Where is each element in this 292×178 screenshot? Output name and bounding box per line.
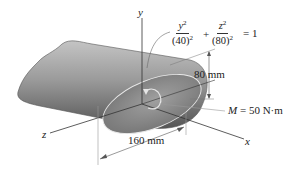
equation-equals: = 1 [243,27,257,39]
moment-label: M = 50 N·m [228,104,283,116]
dim-height-label: 80 mm [194,68,225,80]
beam-diagram: y z x y2 (40)2 + z2 (80)2 = 1 80 mm 160 … [0,0,292,178]
equation-term-z: z2 (80)2 [212,20,233,46]
equation-term-y: y2 (40)2 [172,20,193,46]
equation-plus: + [203,28,209,40]
x-axis-label: x [245,135,250,147]
y-axis-label: y [138,6,143,18]
dim-width-label: 160 mm [128,134,164,146]
z-axis-label: z [42,128,46,140]
